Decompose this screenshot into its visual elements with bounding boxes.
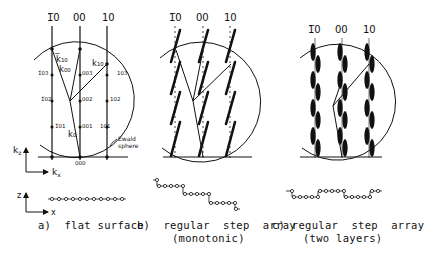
two-layer-step-atoms xyxy=(286,189,382,198)
caption-a: a) flat surface xyxy=(38,219,144,231)
rod-label-10: 10 xyxy=(224,12,237,23)
k00-label: k₀₀ xyxy=(59,64,71,74)
rod-label-m10: 1̅0 xyxy=(47,12,60,23)
node-label: 1̅01 xyxy=(55,123,66,129)
node-label: 000 xyxy=(75,160,86,166)
kx-axis-label: kx xyxy=(52,167,61,178)
rod-label-10: 10 xyxy=(363,24,376,35)
monotonic-step-atoms xyxy=(153,178,240,210)
node-label: 1̅03 xyxy=(38,70,49,76)
rod-label-m10: 1̅0 xyxy=(169,12,182,23)
panel-c: 1̅0 00 10 xyxy=(286,24,396,199)
node-label: 001 xyxy=(82,123,93,129)
node-label: 002 xyxy=(82,96,93,102)
kz-axis-label: kz xyxy=(13,145,21,156)
rod-label-m10: 1̅0 xyxy=(308,24,321,35)
node-label: 102 xyxy=(110,96,121,102)
sphere-label: sphere xyxy=(118,142,139,150)
caption-c: c) regular step array xyxy=(272,219,424,231)
z-axis-label: z xyxy=(17,191,21,200)
ewald-label: Ewald xyxy=(118,135,136,142)
node-label: 101 xyxy=(100,123,111,129)
flat-surface-atoms xyxy=(48,197,126,200)
k0-label: k₀ xyxy=(68,129,77,139)
rod-label-00: 00 xyxy=(196,12,209,23)
real-axes xyxy=(26,193,48,212)
reciprocal-axes xyxy=(26,148,48,172)
panel-a: 1̅0 00 10 k̅₁₀ k₀₀ k₁₀ k₀ 1̅03 1̅02 1̅01 xyxy=(13,12,139,217)
lens-shaped-streaks xyxy=(310,43,374,157)
caption-c-sub: (two layers) xyxy=(303,232,382,244)
caption-b-sub: (monotonic) xyxy=(172,232,245,244)
node-label: 1̅02 xyxy=(41,96,52,102)
panel-b: 1̅0 00 10 xyxy=(153,12,261,211)
node-label: 003 xyxy=(82,70,93,76)
rod-label-00: 00 xyxy=(73,12,86,23)
node-label: 103 xyxy=(117,70,128,76)
rod-label-00: 00 xyxy=(335,24,348,35)
k10-label: k₁₀ xyxy=(92,58,104,68)
k-m10-label: k̅₁₀ xyxy=(54,53,68,64)
rod-label-10: 10 xyxy=(102,12,115,23)
x-axis-label: x xyxy=(51,208,56,217)
